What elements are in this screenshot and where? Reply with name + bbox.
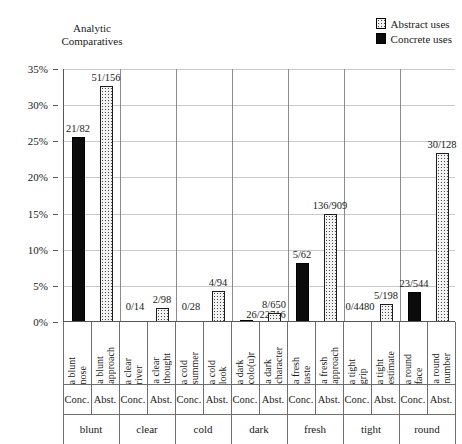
phrase-line-2: thought [161,353,172,384]
phrase-line-2: summer [189,352,200,384]
subcolumn-label-conc: Conc. [175,384,203,414]
subcolumn-label-abst: Abst. [259,384,287,414]
phrase-cell: a freshtaste [287,322,315,384]
bar-blunt-abstract [100,86,113,322]
table-horizontal-rule [63,384,455,385]
phrase-cell: a tightgrip [343,322,371,384]
table-vertical-rule [259,322,260,414]
y-axis-tick-mark [53,69,58,70]
phrase-line-1: a fresh [290,357,301,384]
phrase-text: a bluntnose [66,356,88,385]
phrase-text: a coldlook [206,359,228,384]
phrase-line-2: character [273,347,284,384]
table-horizontal-rule [63,414,455,415]
phrase-line-1: a dark [234,352,245,384]
phrase-line-1: a clear [150,353,161,384]
table-vertical-rule [231,414,232,444]
y-axis-tick-mark [53,250,58,251]
y-axis-tick-label: 5% [33,280,48,292]
y-axis-tick-mark [53,322,58,323]
chart-title-line-2: Comparatives [38,35,146,48]
y-axis-tick-label: 35% [28,63,48,75]
phrase-line-2: grip [357,359,368,384]
adjective-row: bluntclearcolddarkfreshtightround [63,414,455,444]
bar-tight-abstract [380,304,393,322]
subcolumn-label-abst: Abst. [427,384,455,414]
phrase-text: a coldsummer [178,351,200,384]
y-axis-tick-label: 25% [28,135,48,147]
analytic-comparatives-chart: Analytic Comparatives Abstract uses Conc… [0,0,462,444]
table-vertical-rule [287,322,288,414]
phrase-line-1: a tight [374,351,385,384]
phrase-cell: a bluntnose [63,322,91,384]
bar-value-label: 23/544 [399,278,428,289]
table-vertical-rule [175,414,176,444]
filled-black-square-icon [376,33,386,44]
phrase-line-1: a round [402,354,413,384]
bar-value-label: 5/62 [293,249,312,260]
subcolumn-label-abst: Abst. [371,384,399,414]
group-label-fresh: fresh [287,414,343,444]
subcolumn-label-abst: Abst. [203,384,231,414]
y-axis-tick-mark [53,286,58,287]
phrase-text: a freshapproach [318,346,340,384]
bars-layer: 21/8251/1560/142/980/284/9426/227168/650… [64,69,455,322]
phrase-text: a bluntapproach [94,346,116,384]
subcolumn-label-abst: Abst. [315,384,343,414]
table-vertical-rule [371,322,372,414]
phrase-line-2: face [413,354,424,384]
y-axis-tick-mark [53,105,58,106]
bar-value-label: 0/28 [182,301,201,312]
table-vertical-rule [63,322,64,414]
phrase-cell: a tightestimate [371,322,399,384]
subcolumn-label-abst: Abst. [91,384,119,414]
legend-label-abstract: Abstract uses [391,18,450,30]
y-axis-tick-mark [53,214,58,215]
phrase-text: a tightgrip [346,358,368,384]
bar-value-label: 21/82 [66,123,90,134]
bar-fresh-concrete [296,263,309,322]
phrase-line-1: a fresh [318,347,329,384]
bar-value-label: 0/4480 [345,301,374,312]
phrase-line-1: a clear [122,358,133,384]
phrase-line-2: approach [329,347,340,384]
table-vertical-rule [119,414,120,444]
phrase-cell: a darkcolo(u)r [231,322,259,384]
phrase-text: a clearriver [122,357,144,384]
phrase-cell: a coldsummer [175,322,203,384]
bar-fresh-abstract [324,214,337,322]
phrase-cell: a coldlook [203,322,231,384]
table-vertical-rule [175,322,176,414]
subcolumn-label-conc: Conc. [119,384,147,414]
subcolumn-label-abst: Abst. [147,384,175,414]
table-vertical-rule [63,414,64,444]
bar-value-label: 8/650 [262,299,286,310]
table-vertical-rule [455,414,456,444]
bar-value-label: 136/909 [313,200,347,211]
phrase-text: a darkcharacter [262,346,284,384]
legend-item-concrete: Concrete uses [376,31,452,46]
y-axis-tick-mark [53,177,58,178]
plot-area: 21/8251/1560/142/980/284/9426/227168/650… [63,69,455,322]
subcolumn-label-conc: Conc. [287,384,315,414]
phrase-line-1: a blunt [66,357,77,385]
phrase-cell: a roundface [399,322,427,384]
table-vertical-rule [147,322,148,414]
phrase-line-2: taste [301,357,312,384]
bar-blunt-concrete [72,137,85,322]
bar-cold-abstract [212,291,225,322]
table-vertical-rule [427,322,428,414]
phrase-cell: a darkcharacter [259,322,287,384]
phrase-line-1: a cold [178,352,189,384]
group-label-cold: cold [175,414,231,444]
phrase-cell: a bluntapproach [91,322,119,384]
y-axis: 0%5%10%15%20%25%30%35% [0,69,58,322]
phrase-line-2: river [133,358,144,384]
bar-value-label: 5/198 [374,290,398,301]
phrase-text: a tightestimate [374,350,396,384]
group-label-clear: clear [119,414,175,444]
subcolumn-label-conc: Conc. [63,384,91,414]
subcolumn-label-conc: Conc. [231,384,259,414]
table-vertical-rule [91,322,92,414]
group-label-tight: tight [343,414,399,444]
